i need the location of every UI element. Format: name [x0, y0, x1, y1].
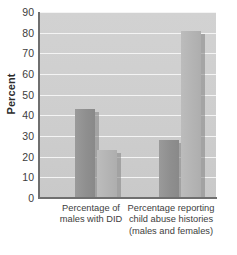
bar-face [97, 150, 117, 198]
x-axis-category-label: Percentage reportingchild abuse historie… [115, 203, 227, 237]
category-label-line: Percentage reporting [115, 203, 227, 214]
y-axis-tick-label: 0 [8, 192, 34, 204]
y-axis-line [38, 12, 40, 199]
y-axis-tick-label: 50 [8, 89, 34, 101]
y-axis-tick-label: 80 [8, 27, 34, 39]
y-axis-tick-label: 10 [8, 171, 34, 183]
bar-chart-figure: Percent 9080706050403020100 Percentage o… [0, 0, 237, 255]
y-axis-tick-label: 60 [8, 68, 34, 80]
category-label-line: (males and females) [115, 226, 227, 237]
y-axis-tick-label: 90 [8, 6, 34, 18]
y-axis-tick-label: 30 [8, 130, 34, 142]
bar [75, 109, 95, 198]
y-axis-tick-label: 70 [8, 47, 34, 59]
bar-shadow [117, 153, 121, 198]
bar-face [159, 140, 179, 198]
plot-area [39, 12, 216, 198]
x-axis-line [38, 197, 217, 199]
x-axis-category-labels: Percentage ofmales with DIDPercentage re… [39, 203, 216, 253]
gridline [39, 12, 216, 13]
bar [181, 31, 201, 198]
category-label-line: child abuse histories [115, 214, 227, 225]
bar-shadow [201, 34, 205, 198]
bar-face [181, 31, 201, 198]
bar-face [75, 109, 95, 198]
bar [159, 140, 179, 198]
y-axis-tick-label: 20 [8, 151, 34, 163]
y-axis-tick-labels: 9080706050403020100 [8, 12, 34, 198]
y-axis-tick-label: 40 [8, 109, 34, 121]
bar [97, 150, 117, 198]
